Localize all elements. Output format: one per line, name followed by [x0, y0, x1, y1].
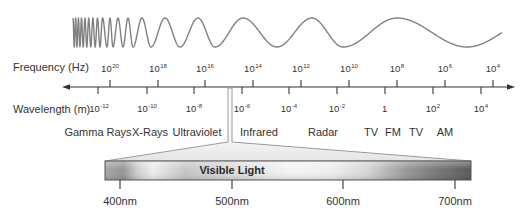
visible-light-label: Visible Light	[199, 165, 264, 176]
tick-base: 10	[426, 103, 437, 114]
tick-base: 10	[149, 63, 160, 74]
tick-base: 10	[390, 63, 401, 74]
nanometer-ticks	[120, 180, 455, 189]
tick-exponent: -4	[292, 103, 297, 109]
tick-base: 10	[196, 63, 207, 74]
frequency-tick-label: 104	[486, 64, 500, 74]
tick-base: 10	[101, 63, 112, 74]
tick-base: 10	[340, 63, 351, 74]
frequency-tick-label: 108	[390, 64, 404, 74]
frequency-tick-label: 1010	[340, 64, 358, 74]
nm-label-500: 500nm	[215, 196, 249, 207]
visible-light-bar	[105, 161, 471, 180]
wavelength-tick-label: 10-6	[234, 104, 250, 114]
band-label-fm: FM	[385, 127, 401, 138]
wavelength-tick-label: 10-12	[89, 104, 109, 114]
frequency-tick-label: 1014	[244, 64, 262, 74]
tick-exponent: 4	[485, 103, 488, 109]
tick-base: 10	[486, 63, 497, 74]
tick-base: 10	[234, 103, 245, 114]
tick-exponent: -8	[197, 103, 202, 109]
tick-base: 10	[137, 103, 148, 114]
band-label-infrared: Infrared	[240, 127, 278, 138]
axis-left-arrow-icon	[62, 84, 70, 89]
tick-exponent: 16	[207, 63, 214, 69]
band-label-tv: TV	[364, 127, 378, 138]
nm-label-400: 400nm	[103, 196, 137, 207]
band-label-am: AM	[437, 127, 454, 138]
frequency-tick-label: 1018	[149, 64, 167, 74]
tick-exponent: -2	[340, 103, 345, 109]
tick-base: 10	[281, 103, 292, 114]
tick-exponent: 8	[401, 63, 404, 69]
tick-exponent: -10	[148, 103, 157, 109]
frequency-axis-label: Frequency (Hz)	[13, 62, 89, 73]
tick-base: 10	[244, 63, 255, 74]
tick-exponent: -12	[100, 103, 109, 109]
wavelength-tick-label: 1	[382, 104, 388, 114]
nm-label-600: 600nm	[326, 196, 360, 207]
tick-base: 1	[382, 103, 387, 114]
wave-illustration	[73, 18, 502, 47]
wavelength-tick-label: 10-4	[281, 104, 297, 114]
wavelength-tick-label: 10-10	[137, 104, 157, 114]
frequency-tick-label: 1016	[196, 64, 214, 74]
tick-exponent: 10	[351, 63, 358, 69]
tick-base: 10	[89, 103, 100, 114]
frequency-tick-label: 1012	[292, 64, 310, 74]
band-label-radar: Radar	[308, 127, 338, 138]
frequency-ticks	[110, 80, 493, 87]
axis-right-arrow-icon	[507, 84, 515, 89]
band-label-x-rays: X-Rays	[132, 127, 168, 138]
band-label-tv: TV	[409, 127, 423, 138]
wavelength-tick-label: 102	[426, 104, 440, 114]
tick-base: 10	[474, 103, 485, 114]
nm-label-700: 700nm	[438, 196, 472, 207]
tick-base: 10	[292, 63, 303, 74]
frequency-tick-label: 1020	[101, 64, 119, 74]
visible-light-callout	[105, 88, 471, 161]
tick-base: 10	[329, 103, 340, 114]
electromagnetic-spectrum-diagram: Frequency (Hz) Wavelength (m) 1020 1018 …	[0, 0, 521, 219]
tick-base: 10	[186, 103, 197, 114]
tick-exponent: 18	[160, 63, 167, 69]
band-label-ultraviolet: Ultraviolet	[173, 127, 222, 138]
wavelength-tick-label: 10-2	[329, 104, 345, 114]
wavelength-tick-label: 10-8	[186, 104, 202, 114]
tick-base: 10	[438, 63, 449, 74]
tick-exponent: 12	[303, 63, 310, 69]
band-label-gamma-rays: Gamma Rays	[64, 127, 131, 138]
tick-exponent: 2	[437, 103, 440, 109]
wavelength-axis-label: Wavelength (m)	[13, 104, 90, 115]
tick-exponent: 20	[112, 63, 119, 69]
wavelength-tick-label: 104	[474, 104, 488, 114]
tick-exponent: 14	[255, 63, 262, 69]
wavelength-ticks	[98, 87, 481, 94]
tick-exponent: 6	[449, 63, 452, 69]
tick-exponent: -6	[245, 103, 250, 109]
frequency-tick-label: 106	[438, 64, 452, 74]
tick-exponent: 4	[497, 63, 500, 69]
